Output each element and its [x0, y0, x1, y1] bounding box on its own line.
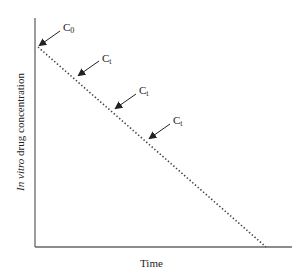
x-axis-label: Time [140, 257, 163, 269]
annotation-c0: C0 [63, 21, 74, 35]
arrow-ct-3 [150, 124, 170, 138]
annotation-ct-1: Ct [102, 52, 112, 66]
annotation-ct-3: Ct [173, 114, 183, 128]
decay-line [38, 47, 266, 247]
arrow-c0 [40, 31, 60, 45]
y-axis-label: In vitro drug concentration [14, 57, 26, 207]
arrow-ct-2 [116, 94, 136, 108]
plot-area [0, 0, 306, 280]
arrow-ct-1 [79, 61, 99, 75]
annotation-ct-2: Ct [139, 84, 149, 98]
chart: C0 Ct Ct Ct Time In vitro drug concentra… [0, 0, 306, 280]
